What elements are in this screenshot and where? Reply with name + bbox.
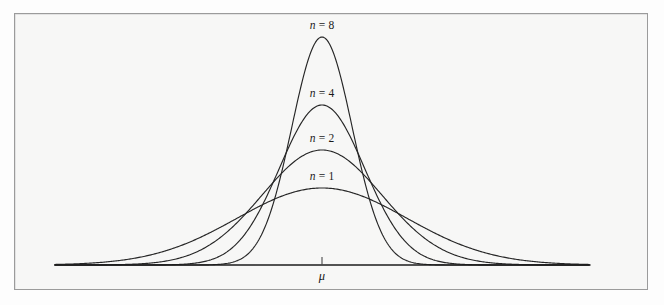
mu-axis-label: μ: [319, 269, 325, 284]
curve-label-n1-equals: =: [316, 170, 329, 182]
curve-label-n8-equals: =: [316, 19, 329, 31]
curve-label-n2-equals: =: [316, 132, 329, 144]
curve-label-n4-value: 4: [328, 87, 334, 99]
curve-label-n1-value: 1: [328, 170, 334, 182]
curve-label-n2-value: 2: [328, 132, 334, 144]
plot-frame-border: [14, 13, 648, 290]
curve-label-n1: n = 1: [310, 170, 335, 182]
curve-label-n8-value: 8: [328, 19, 334, 31]
curve-label-n2: n = 2: [310, 132, 335, 144]
figure-root: n = 8 n = 4 n = 2 n = 1 μ: [0, 0, 664, 305]
curve-label-n4: n = 4: [310, 87, 335, 99]
curve-label-n4-equals: =: [316, 87, 329, 99]
curve-label-n8: n = 8: [310, 19, 335, 31]
